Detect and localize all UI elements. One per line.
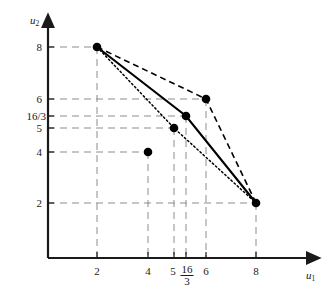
fraction-16-over-3: 16 3	[181, 264, 194, 288]
ytick-label-6: 6	[37, 94, 43, 105]
marker-point-16over3-16over3	[182, 112, 191, 121]
ytick-label-2: 2	[37, 198, 43, 209]
xtick-label-5: 5	[170, 266, 176, 277]
marker-point-4-4	[144, 148, 153, 157]
marker-point-2-8	[93, 43, 102, 52]
fraction-numerator: 16	[181, 264, 194, 275]
marker-point-6-6	[202, 95, 211, 104]
ytick-label-16over3: 16/3	[26, 111, 46, 122]
ytick-label-8: 8	[37, 42, 43, 53]
xtick-label-6: 6	[203, 266, 209, 277]
xtick-label-8: 8	[253, 266, 259, 277]
xtick-label-2: 2	[94, 266, 100, 277]
fraction-denominator: 3	[181, 275, 194, 287]
x-axis-label-subscript: 1	[312, 274, 316, 283]
ytick-label-4: 4	[37, 147, 43, 158]
ytick-label-5: 5	[37, 123, 43, 134]
xtick-label-16over3: 16 3	[181, 265, 194, 289]
x-axis-label: u1	[306, 270, 315, 282]
marker-point-5-5	[170, 124, 179, 133]
utility-frontier-figure: 8 6 16/3 5 4 2 2 4 5 16 3 6 8 u2 u1	[0, 0, 330, 301]
plot-canvas	[0, 0, 330, 301]
xtick-label-4: 4	[145, 266, 151, 277]
y-axis-label-subscript: 2	[36, 19, 40, 28]
y-axis-label: u2	[30, 15, 39, 27]
data-point-markers	[93, 43, 261, 208]
axis-lines	[48, 26, 308, 258]
marker-point-8-2	[252, 199, 261, 208]
